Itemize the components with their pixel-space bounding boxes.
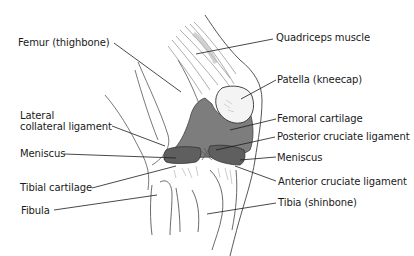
- label-fibula: Fibula: [21, 205, 50, 216]
- label-meniscus-right: Meniscus: [277, 152, 322, 163]
- label-femur: Femur (thighbone): [18, 37, 110, 48]
- label-tibial-cartilage: Tibial cartilage: [20, 182, 92, 193]
- label-tibia: Tibia (shinbone): [278, 197, 357, 208]
- label-patella: Patella (kneecap): [277, 74, 362, 85]
- tibia-texture: [174, 166, 232, 184]
- tibia-fibula-outline: [151, 170, 237, 250]
- label-lateral-collateral-line1: Lateral: [20, 110, 54, 121]
- leader-anterior-cruciate: [235, 166, 276, 181]
- knee-anatomy-diagram: Femur (thighbone) Lateral collateral lig…: [0, 0, 414, 256]
- leader-lateral-collateral: [112, 126, 165, 146]
- leader-meniscus-right: [240, 157, 276, 160]
- meniscus-left-shape: [164, 147, 201, 164]
- label-meniscus-left: Meniscus: [20, 148, 65, 159]
- quadriceps-shading: [192, 32, 218, 64]
- leader-fibula: [54, 195, 157, 210]
- label-quadriceps: Quadriceps muscle: [276, 32, 370, 43]
- label-anterior-cruciate: Anterior cruciate ligament: [278, 176, 407, 187]
- meniscus-right-shape: [209, 145, 245, 165]
- leader-meniscus-left: [64, 154, 176, 158]
- leader-tibial-cartilage: [92, 166, 176, 188]
- label-posterior-cruciate: Posterior cruciate ligament: [277, 131, 409, 142]
- label-femoral-cartilage: Femoral cartilage: [277, 113, 363, 124]
- label-lateral-collateral-line2: collateral ligament: [20, 121, 112, 132]
